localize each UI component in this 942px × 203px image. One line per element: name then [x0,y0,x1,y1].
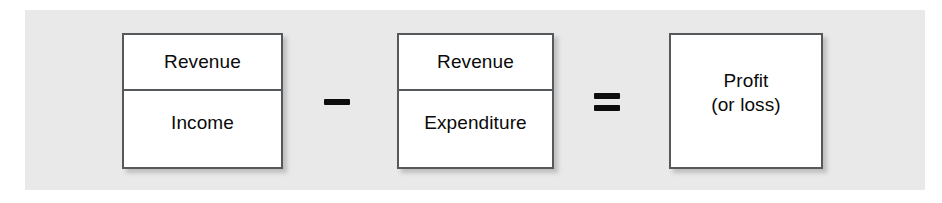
label-profit-line1: Profit [724,69,769,93]
label-revenue-expenditure-top: Revenue [437,50,514,74]
cell-revenue-income-top: Revenue [124,35,281,91]
box-profit: Profit (or loss) [669,33,823,169]
equals-symbol-text: = [607,102,608,103]
label-profit-line2: (or loss) [711,93,781,117]
label-expenditure: Expenditure [424,111,527,135]
box-revenue-expenditure: Revenue Expenditure [397,33,554,169]
label-income: Income [171,111,234,135]
cell-revenue-expenditure-bottom: Expenditure [399,91,552,167]
cell-revenue-income-bottom: Income [124,91,281,167]
cell-revenue-expenditure-top: Revenue [399,35,552,91]
equals-bar-top [594,93,620,99]
equals-sign-icon: = [585,82,629,122]
box-revenue-income: Revenue Income [122,33,283,169]
minus-sign-icon: − [315,82,359,122]
cell-profit: Profit (or loss) [671,35,821,167]
label-revenue-income-top: Revenue [164,50,241,74]
equals-bar-bottom [594,105,620,111]
minus-bar [324,99,350,105]
profit-equation-diagram: Revenue Income − Revenue Expenditure = P… [0,0,942,203]
